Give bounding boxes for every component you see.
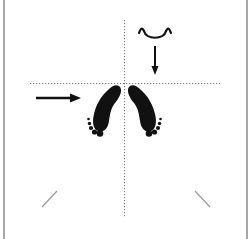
diagram-frame <box>0 0 251 239</box>
foot-placement-diagram <box>0 0 251 239</box>
head-curve-icon <box>139 29 171 38</box>
arrow-down-icon <box>152 46 159 75</box>
left-foot-icon <box>87 85 121 137</box>
right-foot-icon <box>128 85 162 137</box>
arrow-right-icon <box>36 94 81 103</box>
diagonal-mark-right <box>195 191 210 207</box>
diagonal-mark-left <box>42 191 57 207</box>
